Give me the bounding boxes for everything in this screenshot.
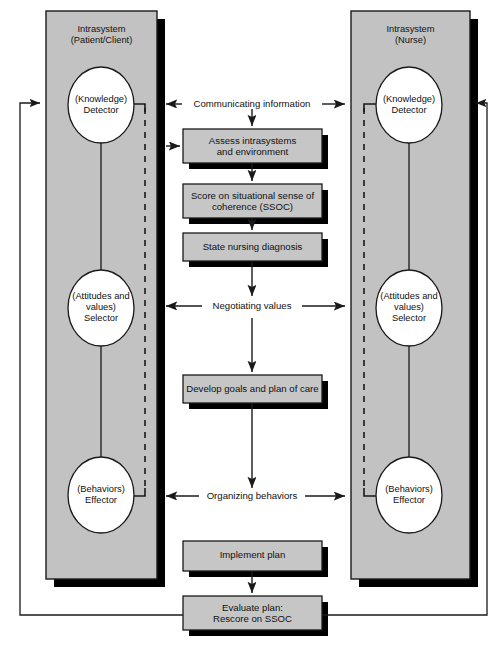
diagram-root: Intrasystem (Patient/Client) Intrasystem…	[0, 0, 494, 646]
label-line1: (Behaviors)	[51, 484, 151, 495]
label-attitudes-values-selector-nurse: (Attitudes and values) Selector	[359, 291, 459, 323]
label-behaviors-effector-patient: (Behaviors) Effector	[51, 484, 151, 506]
label-knowledge-detector-nurse: (Knowledge) Detector	[359, 94, 459, 116]
label-line2: Effector	[51, 495, 151, 506]
box-label-evaluate: Evaluate plan: Rescore on SSOC	[183, 602, 322, 624]
box-label-develop: Develop goals and plan of care	[181, 383, 324, 394]
panel-nurse-title-line1: Intrasystem	[351, 24, 470, 35]
panel-patient-title-line1: Intrasystem	[46, 24, 157, 35]
label-line2: values)	[359, 302, 459, 313]
box-line1: Evaluate plan:	[183, 602, 322, 613]
label-line1: (Attitudes and	[51, 291, 151, 302]
box-label-score: Score on situational sense of coherence …	[181, 190, 324, 212]
panel-patient-title-line2: (Patient/Client)	[46, 35, 157, 46]
label-line1: (Knowledge)	[51, 94, 151, 105]
label-line3: Selector	[359, 313, 459, 324]
box-line1: State nursing diagnosis	[183, 241, 322, 252]
label-line2: Detector	[51, 105, 151, 116]
label-line2: values)	[51, 302, 151, 313]
box-line1: Develop goals and plan of care	[181, 383, 324, 394]
box-label-diagnosis: State nursing diagnosis	[183, 241, 322, 252]
label-line1: (Behaviors)	[359, 484, 459, 495]
box-line1: Score on situational sense of	[181, 190, 324, 201]
label-attitudes-values-selector-patient: (Attitudes and values) Selector	[51, 291, 151, 323]
panel-patient-title: Intrasystem (Patient/Client)	[46, 24, 157, 46]
label-knowledge-detector-patient: (Knowledge) Detector	[51, 94, 151, 116]
box-line2: coherence (SSOC)	[181, 201, 324, 212]
panel-nurse-title-line2: (Nurse)	[351, 35, 470, 46]
label-line3: Selector	[51, 313, 151, 324]
label-behaviors-effector-nurse: (Behaviors) Effector	[359, 484, 459, 506]
box-label-assess: Assess intrasystems and environment	[183, 135, 322, 157]
label-line2: Effector	[359, 495, 459, 506]
box-line1: Implement plan	[183, 549, 322, 560]
label-line2: Detector	[359, 105, 459, 116]
label-line1: (Attitudes and	[359, 291, 459, 302]
label-organizing-behaviors: Organizing behaviors	[199, 490, 305, 501]
box-line2: and environment	[183, 146, 322, 157]
panel-nurse-title: Intrasystem (Nurse)	[351, 24, 470, 46]
box-line1: Assess intrasystems	[183, 135, 322, 146]
label-line1: (Knowledge)	[359, 94, 459, 105]
box-line2: Rescore on SSOC	[183, 613, 322, 624]
box-label-implement: Implement plan	[183, 549, 322, 560]
label-communicating-information: Communicating information	[182, 98, 322, 109]
label-negotiating-values: Negotiating values	[202, 300, 302, 311]
